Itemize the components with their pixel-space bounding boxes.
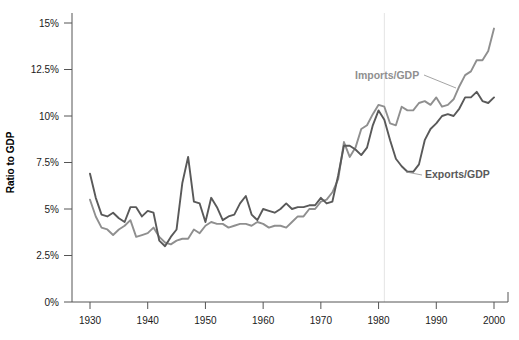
y-axis-title: Ratio to GDP — [5, 131, 16, 193]
y-tick-label: 12.5% — [31, 64, 59, 75]
chart-container: 0%2.5%5%7.5%10%12.5%15% 1930194019501960… — [0, 0, 519, 340]
line-chart: 0%2.5%5%7.5%10%12.5%15% 1930194019501960… — [0, 0, 519, 340]
y-tick-label: 7.5% — [36, 157, 59, 168]
x-tick-label: 2000 — [483, 315, 506, 326]
x-tick-label: 1930 — [79, 315, 102, 326]
x-tick-label: 1940 — [137, 315, 160, 326]
x-tick-label: 1990 — [425, 315, 448, 326]
x-tick-label: 1950 — [194, 315, 217, 326]
x-tick-label: 1970 — [310, 315, 333, 326]
y-tick-label: 10% — [39, 111, 59, 122]
annotation-exports-gdp: Exports/GDP — [425, 168, 490, 180]
x-tick-label: 1960 — [252, 315, 275, 326]
y-tick-label: 5% — [45, 204, 60, 215]
y-tick-label: 0% — [45, 297, 60, 308]
y-tick-label: 2.5% — [36, 250, 59, 261]
y-tick-label: 15% — [39, 18, 59, 29]
x-tick-label: 1980 — [367, 315, 390, 326]
annotation-imports-gdp: Imports/GDP — [355, 69, 419, 81]
